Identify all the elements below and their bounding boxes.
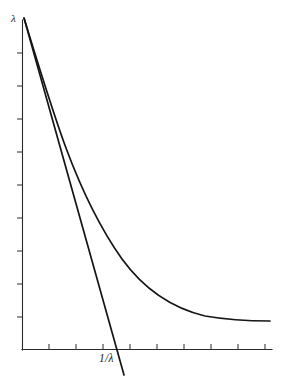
y-axis-label: λ bbox=[10, 12, 16, 24]
x-axis-label: 1/λ bbox=[99, 352, 114, 364]
exponential-decay-curve bbox=[24, 18, 270, 321]
tangent-line bbox=[24, 18, 124, 375]
figure-container: λ 1/λ bbox=[0, 0, 282, 383]
x-axis-ticks bbox=[49, 344, 265, 349]
y-axis-ticks bbox=[17, 53, 22, 317]
exponential-decay-plot: λ 1/λ bbox=[0, 0, 282, 383]
